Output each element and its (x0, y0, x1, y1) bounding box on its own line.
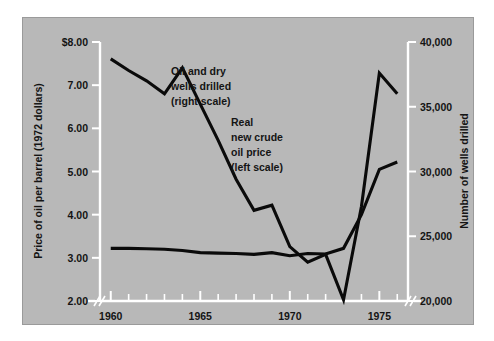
figure-canvas: $8.007.006.005.004.003.002.00 40,00035,0… (0, 0, 494, 341)
wells-annotation-line-1: Oil and dry (171, 65, 226, 77)
right-tick-label: 35,000 (420, 101, 452, 113)
wells-annotation: Oil and dry wells drilled (right scale) (170, 65, 231, 107)
left-tick-label: 4.00 (68, 209, 89, 221)
right-tick-label: 25,000 (420, 230, 452, 242)
right-axis-ticks: 40,00035,00030,00025,00020,000 (408, 36, 452, 307)
left-tick-label: 5.00 (68, 166, 89, 178)
series-line (111, 59, 398, 300)
price-annotation-line-4: (left scale) (231, 161, 283, 173)
price-annotation: Real new crude oil price (left scale) (231, 116, 283, 173)
left-tick-label: 7.00 (68, 79, 89, 91)
right-tick-label: 20,000 (420, 295, 452, 307)
left-axis-title: Price of oil per barrel (1972 dollars) (32, 83, 44, 259)
right-tick-label: 40,000 (420, 36, 452, 48)
right-axis-title: Number of wells drilled (458, 113, 470, 229)
left-axis-ticks: $8.007.006.005.004.003.002.00 (62, 36, 100, 307)
right-tick-label: 30,000 (420, 166, 452, 178)
left-tick-label: 3.00 (68, 252, 89, 264)
wells-annotation-line-2: wells drilled (170, 80, 231, 92)
wells-annotation-line-3: (right scale) (171, 95, 231, 107)
left-tick-label: 2.00 (68, 295, 89, 307)
left-tick-label: $8.00 (62, 36, 88, 48)
x-tick-label: 1970 (278, 310, 302, 322)
x-tick-label: 1975 (368, 310, 392, 322)
price-annotation-line-1: Real (231, 116, 253, 128)
price-annotation-line-2: new crude (231, 131, 283, 143)
price-annotation-line-3: oil price (231, 146, 271, 158)
oil-price-wells-chart: $8.007.006.005.004.003.002.00 40,00035,0… (0, 0, 494, 341)
x-tick-label: 1960 (99, 310, 123, 322)
x-axis-ticks: 1960196519701975 (99, 291, 391, 322)
data-series-group (111, 59, 398, 300)
x-tick-label: 1965 (189, 310, 213, 322)
left-tick-label: 6.00 (68, 122, 89, 134)
